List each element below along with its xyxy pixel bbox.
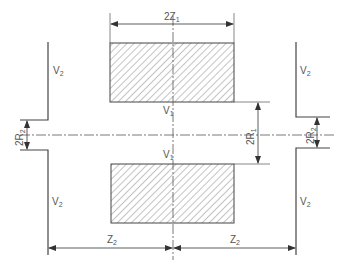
label-v1-lower: V1 — [163, 149, 174, 161]
label-v1-upper: V1 — [163, 105, 174, 117]
outer-electrode-right-upper — [296, 42, 330, 117]
label-v2-top-left: V2 — [53, 65, 64, 77]
label-v2-bottom-right: V2 — [300, 196, 311, 208]
inner-electrode-lower — [111, 164, 234, 223]
label-2z1: 2Z1 — [164, 11, 180, 23]
label-v2-top-right: V2 — [300, 65, 311, 77]
outer-electrode-left-lower — [20, 150, 48, 255]
label-2r2-right: 2R2 — [305, 127, 317, 144]
inner-electrode-upper — [110, 43, 234, 102]
label-v2-bottom-left: V2 — [52, 196, 63, 208]
label-2r2-left: 2R2 — [14, 129, 26, 146]
label-z2-right: Z2 — [230, 234, 240, 246]
electrode-diagram: 2Z1 2R1 2R2 2R2 Z2 Z2 V2 V2 V2 V2 V1 V1 — [0, 0, 341, 266]
outer-electrode-left-upper — [20, 42, 48, 120]
label-z2-left: Z2 — [107, 234, 117, 246]
label-2r1: 2R1 — [245, 128, 257, 145]
